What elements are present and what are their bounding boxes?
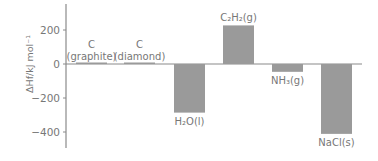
bar [321,64,352,134]
y-tick-label: −400 [31,126,60,138]
category-label: NH₃(g) [271,75,304,86]
category-label: C [88,39,95,50]
category-label: H₂O(l) [175,116,205,127]
category-label: C [136,39,143,50]
enthalpy-bar-chart: 2000−200−400 C(graphite)C(diamond)H₂O(l)… [0,0,378,161]
category-label: NaCl(s) [318,137,354,148]
y-tick-label: −200 [31,92,60,104]
category-labels: C(graphite)C(diamond)H₂O(l)C₂H₂(g)NH₃(g)… [67,12,355,147]
y-tick-label: 0 [53,58,60,70]
bars [76,25,352,133]
y-tick-label: 200 [40,24,60,36]
bar [76,63,107,65]
bar [174,64,205,113]
category-label: C₂H₂(g) [220,12,257,23]
category-label: (diamond) [114,51,166,62]
bar [223,25,254,64]
y-axis-title: ΔHf/kJ mol⁻¹ [24,35,35,93]
bar [272,64,303,72]
category-label: (graphite) [67,51,117,62]
bar [124,63,155,65]
